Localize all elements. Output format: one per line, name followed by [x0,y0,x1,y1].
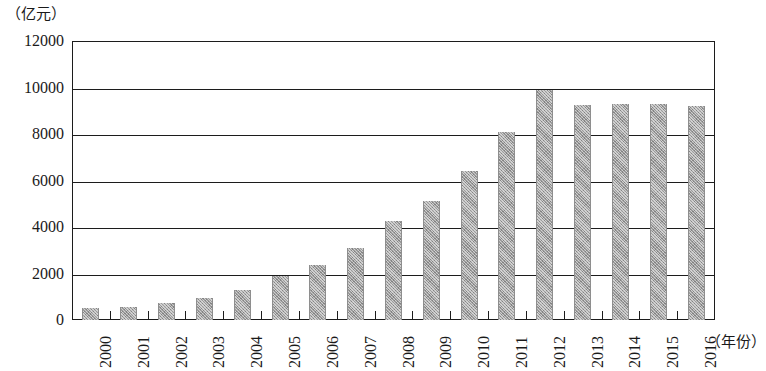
x-axis-tick-label: 2006 [325,322,341,368]
x-axis-tick-label: 2014 [627,322,643,368]
x-axis-tick-label: 2000 [98,322,114,368]
gridline [73,275,714,276]
y-axis-tick-label: 6000 [0,173,64,189]
x-axis-tick-label: 2009 [438,322,454,368]
x-axis-tick-labels: 2000200120022003200420052006200720082009… [72,322,715,371]
gridline [73,89,714,90]
x-axis-tick-label: 2010 [476,322,492,368]
y-axis-tick-label: 0 [0,312,64,328]
x-axis-caption: （年份） [706,330,766,351]
y-axis-tick-label: 2000 [0,266,64,282]
x-axis-tick-label: 2008 [401,322,417,368]
gridline [73,228,714,229]
x-axis-tick-label: 2001 [136,322,152,368]
y-axis-tick-label: 8000 [0,126,64,142]
y-axis-tick-label: 10000 [0,80,64,96]
x-axis-tick-label: 2013 [590,322,606,368]
bar-chart: （亿元） 020004000600080001000012000 2000200… [0,0,766,371]
x-axis-tick-label: 2005 [287,322,303,368]
x-axis-tick-label: 2012 [552,322,568,368]
gridline [73,182,714,183]
x-axis-tick-label: 2007 [363,322,379,368]
gridline [73,135,714,136]
y-axis-unit-label: （亿元） [6,2,66,23]
y-axis-tick-label: 4000 [0,219,64,235]
x-axis-tick-label: 2015 [665,322,681,368]
y-axis-tick-label: 12000 [0,33,64,49]
x-axis-tick-label: 2011 [514,322,530,368]
x-axis-tick-label: 2004 [249,322,265,368]
x-axis-tick-label: 2003 [211,322,227,368]
x-axis-tick-label: 2002 [174,322,190,368]
plot-area [72,41,715,320]
